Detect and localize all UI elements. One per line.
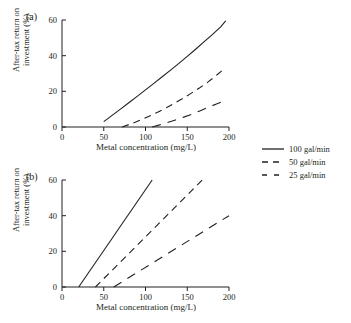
legend-swatch-solid-icon [262,144,284,154]
panel-a-series-group [104,21,226,127]
panel-b-xtick-200: 200 [223,292,236,302]
figure-container: (a) After-tax return on investment (%) 0… [0,0,351,323]
panel-a-xtick-200: 200 [223,132,236,142]
panel-a-y-ticks [62,20,66,127]
panel-a-xtick-100: 100 [139,132,152,142]
legend-swatch-dashed-icon [262,157,284,167]
legend: 100 gal/min 50 gal/min 25 gal/min [262,142,350,181]
panel-a-xtick-50: 50 [100,132,109,142]
panel-a-xtick-150: 150 [181,132,194,142]
panel-b-ytick-60: 60 [49,175,58,185]
panel-a-plot: 0 20 40 60 0 50 100 150 200 [0,2,245,162]
panel-a: (a) After-tax return on investment (%) 0… [0,2,245,162]
panel-b-ytick-0: 0 [53,282,57,292]
panel-b-xtick-150: 150 [181,292,194,302]
panel-b-x-axis-label: Metal concentration (mg/L) [62,302,230,312]
panel-b-plot: 0 20 40 60 0 50 100 150 200 [0,162,245,322]
panel-a-series-100galmin [104,21,226,122]
legend-label-25galmin: 25 gal/min [289,170,326,180]
legend-label-100galmin: 100 gal/min [289,144,330,154]
legend-item-50galmin: 50 gal/min [262,155,350,168]
legend-item-100galmin: 100 gal/min [262,142,350,155]
panel-a-series-25galmin [152,101,225,127]
panel-a-xtick-0: 0 [60,132,64,142]
panel-b: (b) After-tax return on investment (%) 0… [0,162,245,322]
panel-b-xtick-0: 0 [60,292,64,302]
panel-b-xtick-50: 50 [100,292,109,302]
panel-b-series-group [79,180,229,287]
panel-a-x-ticks [62,127,229,131]
panel-b-xtick-100: 100 [139,292,152,302]
legend-label-50galmin: 50 gal/min [289,157,326,167]
panel-b-ytick-20: 20 [49,246,58,256]
panel-b-series-100galmin [79,180,152,287]
panel-a-ytick-20: 20 [49,86,58,96]
legend-item-25galmin: 25 gal/min [262,168,350,181]
panel-b-x-ticks [62,287,229,291]
panel-a-x-axis-label: Metal concentration (mg/L) [62,142,230,152]
panel-a-series-50galmin [122,68,225,127]
panel-a-ytick-60: 60 [49,15,58,25]
panel-a-ytick-0: 0 [53,122,57,132]
panel-b-ytick-40: 40 [49,211,58,221]
panel-b-y-ticks [62,180,66,287]
panel-b-series-50galmin [95,180,202,287]
legend-swatch-long-dashed-icon [262,170,284,180]
panel-a-ytick-40: 40 [49,51,58,61]
